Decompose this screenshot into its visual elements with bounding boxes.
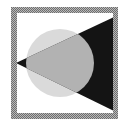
spotlight-icon (0, 0, 129, 126)
